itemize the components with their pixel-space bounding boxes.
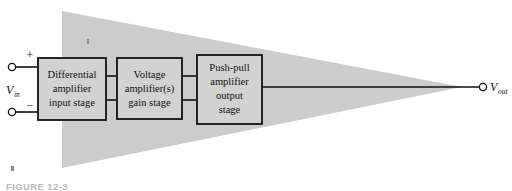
block-label-line: amplifier(s): [125, 83, 175, 95]
block-label-line: Push-pull: [209, 62, 249, 73]
block-label-line: amplifier: [53, 83, 92, 94]
output-terminal: [479, 83, 486, 90]
vin-subscript: in: [14, 90, 20, 99]
block-label-line: amplifier: [210, 76, 249, 87]
vout-subscript: out: [498, 87, 509, 96]
opamp-block-diagram: Differential amplifier input stage Volta…: [0, 0, 512, 191]
scan-speck-top: [87, 39, 89, 44]
block-label-line: Voltage: [134, 69, 166, 80]
block-label-line: input stage: [49, 97, 95, 108]
block-label-line: stage: [219, 104, 241, 115]
plus-sign-label: +: [27, 48, 34, 62]
input-terminal-minus: [8, 108, 15, 115]
figure-caption: FIGURE 12-3: [6, 181, 68, 191]
minus-sign-label: −: [27, 98, 34, 112]
block-label-line: gain stage: [128, 97, 171, 108]
input-terminal-plus: [8, 63, 15, 70]
figure-container: Differential amplifier input stage Volta…: [0, 0, 512, 191]
block-label-line: output: [216, 90, 243, 101]
scan-speck-bottom: [11, 166, 14, 171]
block-label-line: Differential: [48, 69, 97, 80]
